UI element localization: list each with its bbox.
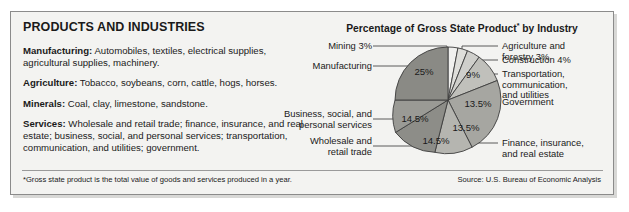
callout-wholesale-retail-line2: retail trade [300,147,372,158]
footer-divider [22,170,603,171]
products-and-industries-section: PRODUCTS AND INDUSTRIES Manufacturing: A… [23,20,310,180]
callout-transportation-line1: Transportation, [502,69,614,80]
slice-label-transportation: 9% [466,69,480,80]
slice-label-manufacturing: 25% [414,66,434,77]
pie-chart-section: Percentage of Gross State Product* by In… [310,18,614,168]
slice-label-business-services: 14.5% [401,113,429,124]
callout-business-services[interactable]: Business, social, and personal services [260,109,372,130]
slice-label-wholesale-retail: 14.5% [422,135,450,146]
info-panel: PRODUCTS AND INDUSTRIES Manufacturing: A… [10,11,614,195]
callout-manufacturing[interactable]: Manufacturing [294,61,372,72]
callout-manufacturing-text: Manufacturing [313,60,372,71]
entry-label-agriculture: Agriculture: [23,77,77,88]
callout-wholesale-retail-line1: Wholesale and [300,136,372,147]
callout-agriculture-line1: Agriculture and [502,41,614,52]
callout-construction[interactable]: Construction 4% [502,55,614,66]
pie-chart: 9% 13.5% 13.5% 14.5% 14.5% 25% Mining 3%… [310,18,614,168]
entry-label-minerals: Minerals: [23,98,65,109]
page-title: PRODUCTS AND INDUSTRIES [23,20,310,34]
slice-label-finance: 13.5% [452,122,480,133]
callout-government[interactable]: Government [502,97,614,108]
callout-wholesale-retail[interactable]: Wholesale and retail trade [300,136,372,157]
figure-root: PRODUCTS AND INDUSTRIES Manufacturing: A… [0,0,629,212]
entry-label-manufacturing: Manufacturing: [23,45,92,56]
callout-business-services-line1: Business, social, and [260,109,372,120]
footnote-text: *Gross state product is the total value … [23,175,292,185]
industry-entry-agriculture: Agriculture: Tobacco, soybeans, corn, ca… [23,77,310,89]
industry-entry-manufacturing: Manufacturing: Automobiles, textiles, el… [23,45,310,68]
callout-finance-line1: Finance, insurance, [502,138,614,149]
callout-mining-text: Mining 3% [328,40,372,51]
callout-finance[interactable]: Finance, insurance, and real estate [502,138,614,159]
callout-business-services-line2: personal services [260,120,372,131]
entry-text-agriculture: Tobacco, soybeans, corn, cattle, hogs, h… [77,77,277,88]
entry-text-minerals: Coal, clay, limestone, sandstone. [65,98,208,109]
callout-government-text: Government [502,96,554,107]
source-credit: Source: U.S. Bureau of Economic Analysis [457,175,601,185]
callout-construction-text: Construction 4% [502,54,571,65]
callout-mining[interactable]: Mining 3% [308,41,372,52]
callout-finance-line2: and real estate [502,149,614,160]
slice-label-government: 13.5% [464,98,492,109]
industry-entry-minerals: Minerals: Coal, clay, limestone, sandsto… [23,98,310,110]
entry-label-services: Services: [23,118,66,129]
